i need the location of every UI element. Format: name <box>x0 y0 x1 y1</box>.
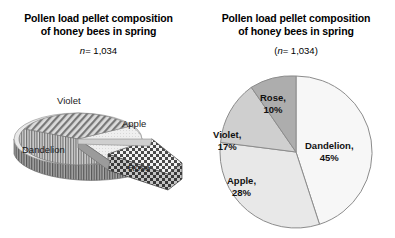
left-label-apple: Apple <box>122 118 146 129</box>
right-label-violet-pct: 17% <box>213 141 241 153</box>
left-label-dandelion: Dandelion <box>22 144 65 155</box>
right-label-apple-name: Apple, <box>227 175 256 187</box>
right-label-rose: Rose, 10% <box>260 92 286 115</box>
two-pie-figure: Pollen load pellet composition of honey … <box>0 0 395 238</box>
right-label-dandelion-pct: 45% <box>305 152 354 164</box>
right-label-violet-name: Violet, <box>213 129 241 141</box>
right-label-rose-name: Rose, <box>260 92 286 104</box>
right-title-line-1: Pollen load pellet composition <box>197 12 395 25</box>
left-label-rose: Rose <box>128 162 150 173</box>
right-label-apple: Apple, 28% <box>227 175 256 198</box>
right-label-rose-pct: 10% <box>260 104 286 116</box>
right-chart-panel: Pollen load pellet composition of honey … <box>197 0 395 238</box>
right-label-dandelion: Dandelion, 45% <box>305 140 354 163</box>
left-pie-svg <box>0 82 197 232</box>
right-sample-size: (n= 1,034) <box>197 38 395 57</box>
right-label-dandelion-name: Dandelion, <box>305 140 354 152</box>
left-title-line-2: of honey bees in spring <box>0 25 197 38</box>
right-sample-value: = 1,034) <box>283 45 318 56</box>
right-label-violet: Violet, 17% <box>213 129 241 152</box>
left-chart-title: Pollen load pellet composition of honey … <box>0 0 197 38</box>
right-title-line-2: of honey bees in spring <box>197 25 395 38</box>
right-pie-2d: Dandelion, 45% Apple, 28% Violet, 17% Ro… <box>197 72 395 238</box>
right-chart-title: Pollen load pellet composition of honey … <box>197 0 395 38</box>
left-pie-3d: Violet Apple Dandelion Rose <box>0 82 197 232</box>
left-label-violet: Violet <box>57 95 81 106</box>
left-title-line-1: Pollen load pellet composition <box>0 12 197 25</box>
left-sample-value: = 1,034 <box>85 45 117 56</box>
right-label-apple-pct: 28% <box>227 187 256 199</box>
left-chart-panel: Pollen load pellet composition of honey … <box>0 0 197 238</box>
left-sample-size: n= 1,034 <box>0 38 197 57</box>
